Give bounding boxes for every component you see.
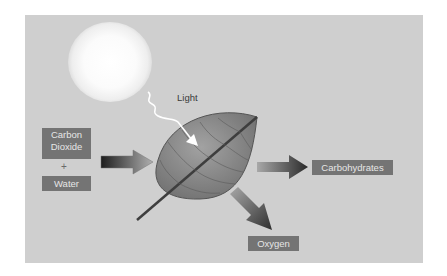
leaf-icon: [137, 113, 257, 220]
carbon-dioxide-text: Carbon Dioxide: [51, 129, 83, 152]
light-label: Light: [177, 92, 198, 103]
oxygen-label: Oxygen: [248, 236, 299, 251]
carbon-dioxide-label: Carbon Dioxide: [42, 128, 91, 159]
plus-sign: +: [61, 161, 67, 172]
arrow-in-icon: [101, 150, 153, 174]
arrow-carbohydrates-icon: [257, 155, 308, 179]
arrow-oxygen-icon: [230, 187, 272, 230]
water-label: Water: [42, 176, 91, 191]
carbohydrates-label: Carbohydrates: [312, 160, 393, 175]
